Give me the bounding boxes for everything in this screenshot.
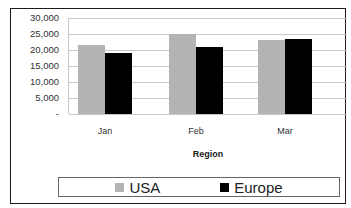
gridline	[69, 114, 347, 115]
y-tick-label: 15,000	[11, 61, 59, 71]
bar-europe-mar	[285, 39, 312, 114]
chart-frame: -5,00010,00015,00020,00025,00030,000JanF…	[10, 8, 346, 204]
x-tick-label: Mar	[265, 126, 305, 136]
y-tick-label: 30,000	[11, 13, 59, 23]
gridline	[69, 18, 347, 19]
y-tick-label: 10,000	[11, 77, 59, 87]
legend-label-usa: USA	[129, 179, 160, 196]
legend-item-usa: USA	[115, 179, 160, 196]
bar-usa-mar	[258, 40, 285, 114]
bar-europe-feb	[196, 47, 223, 114]
legend-label-europe: Europe	[234, 179, 282, 196]
x-axis-title: Region	[168, 149, 248, 159]
legend-item-europe: Europe	[220, 179, 282, 196]
legend-swatch-usa	[115, 183, 124, 192]
y-tick-label: 25,000	[11, 29, 59, 39]
gridline	[69, 34, 347, 35]
bar-usa-feb	[169, 34, 196, 114]
bar-usa-jan	[78, 45, 105, 114]
legend-swatch-europe	[220, 183, 229, 192]
x-tick-label: Feb	[176, 126, 216, 136]
x-tick-label: Jan	[85, 126, 125, 136]
y-tick-label: -	[11, 109, 59, 119]
y-tick-label: 20,000	[11, 45, 59, 55]
bar-europe-jan	[105, 53, 132, 114]
y-tick-label: 5,000	[11, 93, 59, 103]
legend: USA Europe	[58, 177, 340, 197]
